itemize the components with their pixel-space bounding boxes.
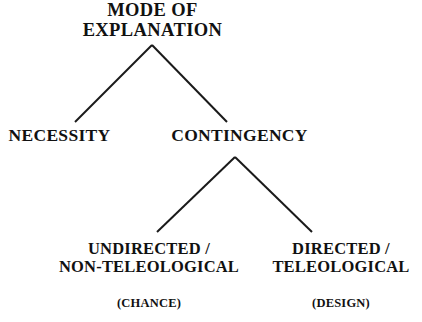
node-contingency: CONTINGENCY [167,126,312,144]
annotation-chance: (CHANCE) [80,296,218,311]
node-mode-of-explanation-line-1: MODE OF [0,1,305,20]
node-contingency-label: CONTINGENCY [167,126,312,144]
node-directed-teleological: DIRECTED / TELEOLOGICAL [260,240,422,276]
node-undirected-line-2: NON-TELEOLOGICAL [50,258,248,275]
node-mode-of-explanation: MODE OF EXPLANATION [0,1,305,41]
mode-of-explanation-diagram: MODE OF EXPLANATION NECESSITY CONTINGENC… [0,0,422,322]
node-necessity-label: NECESSITY [0,126,119,144]
node-directed-line-1: DIRECTED / [260,240,422,257]
node-necessity: NECESSITY [0,126,119,144]
branch-root-to-necessity [75,45,152,122]
node-undirected-line-1: UNDIRECTED / [50,240,248,257]
node-directed-line-2: TELEOLOGICAL [260,258,422,275]
branch-contingency-to-directed [235,157,312,232]
node-undirected-non-teleological: UNDIRECTED / NON-TELEOLOGICAL [50,240,248,276]
branch-root-to-contingency [152,45,227,122]
node-mode-of-explanation-line-2: EXPLANATION [0,21,305,40]
annotation-design: (DESIGN) [272,296,410,311]
branch-contingency-to-undirected [157,157,235,232]
